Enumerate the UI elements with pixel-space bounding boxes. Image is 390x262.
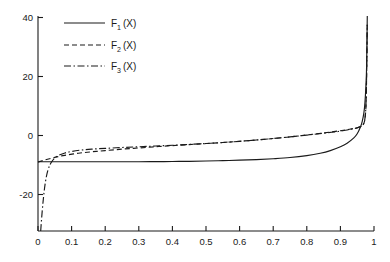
curve-f2x bbox=[38, 25, 367, 162]
y-axis-ticks bbox=[38, 18, 43, 195]
y-tick-label-40: 40 bbox=[22, 12, 33, 23]
x-tick-label-0.9: 0.9 bbox=[334, 236, 347, 247]
x-tick-label-0.8: 0.8 bbox=[300, 236, 313, 247]
x-tick-label-0.3: 0.3 bbox=[132, 236, 145, 247]
legend: F1(X) F2(X) F3(X) bbox=[64, 18, 136, 74]
x-tick-label-1: 1 bbox=[371, 236, 376, 247]
x-tick-label-0.6: 0.6 bbox=[233, 236, 246, 247]
y-tick-label--20: -20 bbox=[19, 189, 33, 200]
x-axis-tick-labels: 00.10.20.30.40.50.60.70.80.91 bbox=[35, 236, 376, 247]
line-chart: 40 20 0 -20 00.10.20.30.40.50.60.70.80.9… bbox=[0, 0, 390, 262]
y-axis: 40 20 0 -20 bbox=[19, 12, 43, 231]
legend-entry-f3: F3(X) bbox=[64, 61, 136, 74]
curve-f1x bbox=[38, 16, 367, 162]
legend-label-f3: F3(X) bbox=[111, 61, 136, 74]
curve-f3x bbox=[41, 25, 368, 231]
x-axis: 00.10.20.30.40.50.60.70.80.91 bbox=[35, 226, 376, 247]
chart-figure: 40 20 0 -20 00.10.20.30.40.50.60.70.80.9… bbox=[0, 0, 390, 262]
legend-label-f1: F1(X) bbox=[111, 18, 136, 31]
x-tick-label-0.7: 0.7 bbox=[267, 236, 280, 247]
x-tick-label-0.4: 0.4 bbox=[166, 236, 179, 247]
curve-group bbox=[38, 16, 367, 231]
x-tick-label-0.2: 0.2 bbox=[99, 236, 112, 247]
x-axis-ticks bbox=[38, 226, 374, 231]
y-tick-label-20: 20 bbox=[22, 71, 33, 82]
x-tick-label-0: 0 bbox=[35, 236, 40, 247]
x-tick-label-0.5: 0.5 bbox=[199, 236, 212, 247]
y-tick-label-0: 0 bbox=[28, 130, 33, 141]
x-tick-label-0.1: 0.1 bbox=[65, 236, 78, 247]
legend-entry-f2: F2(X) bbox=[64, 40, 136, 53]
y-axis-tick-labels: 40 20 0 -20 bbox=[19, 12, 33, 200]
legend-entry-f1: F1(X) bbox=[64, 18, 136, 31]
legend-label-f2: F2(X) bbox=[111, 40, 136, 53]
